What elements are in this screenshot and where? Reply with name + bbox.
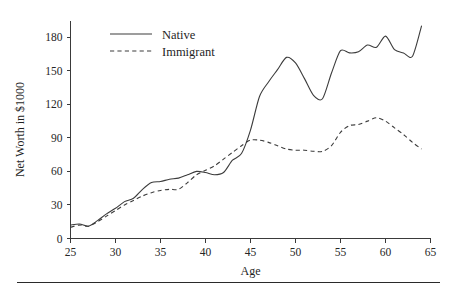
y-tick-label: 60 xyxy=(51,165,63,177)
legend: Native Immigrant xyxy=(110,28,215,59)
series-line-native xyxy=(71,26,422,226)
x-axis-title: Age xyxy=(241,264,261,278)
line-chart: 0306090120150180 253035404550556065 Age … xyxy=(0,0,455,296)
y-tick-label: 0 xyxy=(57,233,63,245)
x-tick-label: 65 xyxy=(425,246,437,258)
x-tick-label: 25 xyxy=(65,246,77,258)
x-tick-label: 55 xyxy=(335,246,347,258)
y-tick-marks xyxy=(67,37,71,238)
x-axis-group: 253035404550556065 xyxy=(65,239,437,258)
x-tick-label: 30 xyxy=(110,246,122,258)
legend-label-immigrant: Immigrant xyxy=(162,45,215,59)
y-tick-label: 90 xyxy=(51,132,63,144)
y-axis-group: 0306090120150180 xyxy=(45,21,70,245)
y-tick-label: 120 xyxy=(45,98,63,110)
legend-label-native: Native xyxy=(162,28,196,42)
x-tick-label: 60 xyxy=(380,246,392,258)
y-axis-title: Net Worth in $1000 xyxy=(13,82,27,177)
x-tick-marks xyxy=(71,239,431,243)
y-tick-label: 150 xyxy=(45,65,63,77)
x-tick-label: 35 xyxy=(155,246,167,258)
y-tick-label: 180 xyxy=(45,31,63,43)
y-tick-labels: 0306090120150180 xyxy=(45,31,63,244)
series-line-immigrant xyxy=(71,118,422,228)
x-tick-label: 50 xyxy=(290,246,302,258)
x-tick-label: 40 xyxy=(200,246,212,258)
figure-container: 0306090120150180 253035404550556065 Age … xyxy=(0,0,455,296)
x-tick-label: 45 xyxy=(245,246,257,258)
y-tick-label: 30 xyxy=(51,199,63,211)
data-series-group xyxy=(71,26,422,227)
x-tick-labels: 253035404550556065 xyxy=(65,246,437,258)
